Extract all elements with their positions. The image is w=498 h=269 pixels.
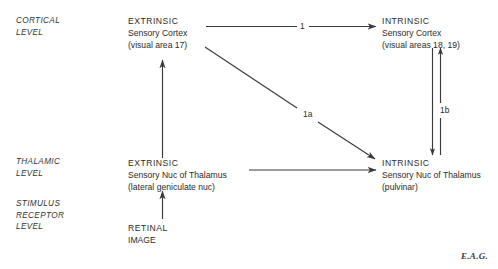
arrow-label-1a: 1a [301,109,314,119]
level-label-cortical: CORTICAL LEVEL [16,15,60,38]
level-label-stimulus-receptor: STIMULUS RECEPTOR LEVEL [16,198,64,233]
node-detail: (pulvinar) [382,181,481,193]
node-detail: (lateral geniculate nuc) [128,181,227,193]
level-label-thalamic: THALAMIC LEVEL [16,156,60,179]
node-subtitle: Sensory Cortex [382,27,460,39]
node-title: EXTRINSIC [128,157,227,169]
node-intrinsic-sensory-nuc-thalamus: INTRINSIC Sensory Nuc of Thalamus (pulvi… [382,157,481,194]
node-subtitle: Sensory Nuc of Thalamus [128,169,227,181]
arrow-label-1: 1 [298,21,307,31]
node-retinal-image: RETINAL IMAGE [128,222,168,246]
node-title: INTRINSIC [382,157,481,169]
artist-signature: E.A.G. [461,251,488,261]
sensory-pathway-diagram: CORTICAL LEVEL THALAMIC LEVEL STIMULUS R… [0,0,498,269]
node-detail: (visual areas 18, 19) [382,39,460,51]
node-subtitle: Sensory Cortex [128,27,187,39]
node-title: RETINAL [128,222,168,234]
node-title: INTRINSIC [382,15,460,27]
node-extrinsic-sensory-nuc-thalamus: EXTRINSIC Sensory Nuc of Thalamus (later… [128,157,227,194]
node-detail: (visual area 17) [128,39,187,51]
connection-extrinsic-cortex-to-intrinsic-thalamus [205,47,375,159]
arrow-label-1b: 1b [438,105,451,115]
connection-intrinsic-cortex-thalamus-reciprocal [433,48,445,155]
node-title: EXTRINSIC [128,15,187,27]
node-intrinsic-sensory-cortex: INTRINSIC Sensory Cortex (visual areas 1… [382,15,460,52]
node-subtitle: IMAGE [128,234,168,246]
node-extrinsic-sensory-cortex: EXTRINSIC Sensory Cortex (visual area 17… [128,15,187,52]
node-subtitle: Sensory Nuc of Thalamus [382,169,481,181]
